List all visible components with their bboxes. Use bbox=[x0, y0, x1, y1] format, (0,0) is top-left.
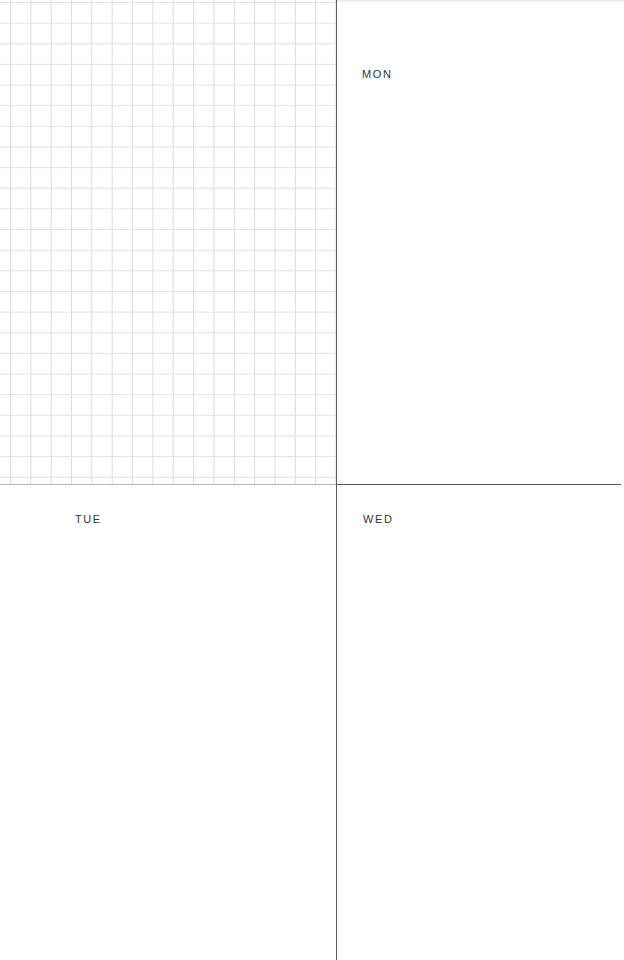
day-label-wednesday: WED bbox=[363, 513, 393, 525]
horizontal-divider-right bbox=[337, 484, 621, 485]
day-panel-wednesday[interactable]: WED bbox=[338, 485, 624, 960]
grid-notes-panel[interactable] bbox=[0, 0, 337, 484]
vertical-divider bbox=[336, 0, 337, 960]
day-label-tuesday: TUE bbox=[75, 513, 102, 525]
day-panel-monday[interactable]: MON bbox=[338, 0, 624, 484]
day-panel-tuesday[interactable]: TUE bbox=[0, 485, 337, 960]
horizontal-divider-left bbox=[0, 484, 336, 485]
day-label-monday: MON bbox=[362, 68, 392, 80]
